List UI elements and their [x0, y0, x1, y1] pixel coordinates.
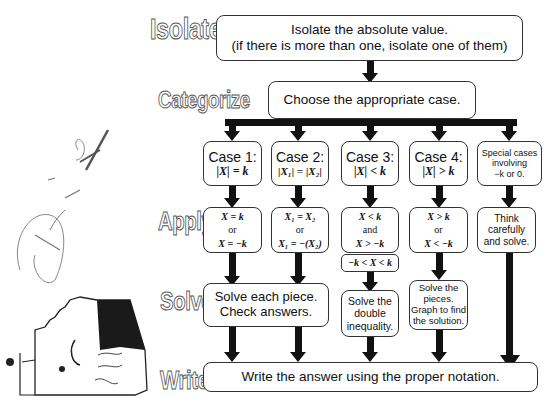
apply-2-or: or — [296, 224, 304, 236]
apply-case-3-combined-box: −k < X < k — [341, 254, 399, 272]
special-cases-box: Special cases involving −k or 0. — [477, 141, 542, 186]
stage-label-write: Write — [160, 365, 208, 396]
solve-12-line2: Check answers. — [220, 305, 312, 320]
arrowhead-icon — [362, 131, 378, 141]
special-line1: Special cases — [482, 148, 538, 158]
solve-case-3-box: Solve the double inequality. — [341, 290, 399, 337]
arrowhead-icon — [431, 131, 447, 141]
arrow-special-to-write — [506, 253, 513, 358]
arrow-solve4-to-write — [436, 330, 443, 354]
isolate-box: Isolate the absolute value. (if there is… — [216, 15, 523, 61]
apply-case-2-box: X₁ = X₂ or X₁ = −(X₂) — [271, 207, 329, 253]
apply-3-line2: X > −k — [356, 238, 384, 250]
apply-2-line2: X₁ = −(X₂) — [278, 238, 322, 250]
solve-3-line1: Solve the — [348, 295, 392, 307]
isolate-line2: (if there is more than one, isolate one … — [231, 38, 507, 54]
case-2-box: Case 2: |X₁| = |X₂| — [271, 141, 329, 186]
write-text: Write the answer using the proper notati… — [242, 369, 500, 385]
arrowhead-icon — [224, 352, 240, 362]
handwritten-quiz-doodle — [0, 120, 150, 290]
apply-special-line3: and solve. — [484, 236, 530, 248]
case-3-box: Case 3: |X| < k — [341, 141, 399, 186]
solve-3-line2: double — [354, 307, 386, 319]
apply-2-line1: X₁ = X₂ — [284, 211, 315, 223]
case-4-formula: |X| > k — [422, 165, 454, 179]
doodle-character — [0, 295, 160, 405]
apply-4-line2: X < −k — [424, 238, 452, 250]
apply-3-line1: X < k — [359, 211, 381, 223]
case-1-box: Case 1: |X| = k — [203, 141, 262, 186]
case-1-formula: |X| = k — [216, 165, 248, 179]
apply-1-line1: X = k — [221, 211, 243, 223]
solve-cases-1-2-box: Solve each piece. Check answers. — [203, 283, 329, 327]
special-line2: involving — [492, 158, 527, 168]
apply-special-line2: carefully — [488, 224, 525, 236]
arrowhead-icon — [290, 131, 306, 141]
apply-4-or: or — [434, 224, 442, 236]
arrowhead-icon — [431, 352, 447, 362]
stage-label-isolate: Isolate — [150, 12, 221, 46]
arrow-apply4-to-solve — [436, 253, 443, 271]
arrowhead-icon — [362, 352, 378, 362]
arrowhead-icon — [224, 131, 240, 141]
categorize-text: Choose the appropriate case. — [283, 92, 460, 108]
case-2-formula: |X₁| = |X₂| — [278, 165, 322, 178]
apply-1-or: or — [228, 224, 236, 236]
special-line3: −k or 0. — [494, 169, 524, 179]
apply-special-line1: Think — [494, 213, 518, 225]
apply-3-combined: −k < X < k — [348, 257, 392, 269]
arrow-solve1-to-write — [229, 327, 236, 354]
solve-3-line3: inequality. — [347, 320, 394, 332]
categorize-box: Choose the appropriate case. — [268, 81, 476, 119]
apply-case-3-box: X < k and X > −k — [341, 207, 399, 253]
solve-12-line1: Solve each piece. — [215, 290, 318, 305]
stage-label-categorize: Categorize — [158, 86, 250, 114]
arrowhead-icon — [501, 131, 517, 141]
arrow-solve2-to-write — [295, 327, 302, 354]
apply-1-line2: X = −k — [218, 238, 246, 250]
apply-case-4-box: X > k or X < −k — [409, 207, 468, 253]
apply-3-and: and — [363, 224, 377, 236]
case-3-title: Case 3: — [346, 149, 394, 165]
solve-4-line4: the solution. — [413, 316, 464, 327]
case-2-title: Case 2: — [276, 149, 324, 165]
case-3-formula: |X| < k — [354, 165, 386, 179]
arrowhead-icon — [431, 270, 447, 280]
apply-special-box: Think carefully and solve. — [477, 207, 536, 253]
solve-case-4-box: Solve the pieces. Graph to find the solu… — [409, 280, 468, 330]
case-1-title: Case 1: — [208, 149, 256, 165]
apply-4-line1: X > k — [427, 211, 449, 223]
case-4-title: Case 4: — [414, 149, 462, 165]
write-box: Write the answer using the proper notati… — [203, 362, 538, 392]
case-4-box: Case 4: |X| > k — [409, 141, 468, 186]
isolate-line1: Isolate the absolute value. — [291, 22, 448, 38]
arrowhead-icon — [290, 352, 306, 362]
apply-case-1-box: X = k or X = −k — [203, 207, 262, 253]
